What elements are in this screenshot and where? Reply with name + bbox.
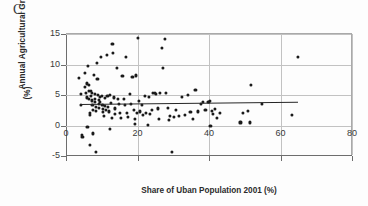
scatter-point (127, 115, 130, 118)
scatter-point (246, 109, 249, 112)
scatter-point (88, 113, 91, 116)
y-tick-label: 15 (38, 28, 60, 38)
scatter-point (120, 116, 123, 119)
scatter-point (107, 106, 110, 109)
scatter-point (215, 117, 218, 120)
y-axis-unit-text: (%) (23, 87, 32, 100)
scatter-point (177, 114, 180, 117)
scatter-point (136, 37, 139, 40)
x-tick (209, 156, 210, 161)
scatter-point (181, 95, 184, 98)
y-axis-title-text: Annual Agricultural Growth (18, 0, 27, 90)
scatter-point (290, 113, 293, 116)
scatter-point (84, 86, 87, 89)
scatter-point (137, 100, 140, 103)
scatter-point (86, 125, 89, 128)
scatter-point (218, 112, 221, 115)
scatter-point (83, 71, 86, 74)
y-axis-unit: (%) (16, 78, 30, 108)
y-tick-label: 10 (38, 59, 60, 69)
scatter-point (108, 127, 111, 130)
scatter-point (167, 118, 170, 121)
scatter-point (121, 75, 124, 78)
scatter-point (149, 112, 152, 115)
scatter-point (96, 78, 99, 81)
scatter-point (113, 107, 116, 110)
scatter-point (111, 43, 114, 46)
x-tick-label: 40 (197, 128, 221, 138)
scatter-point (191, 117, 194, 120)
x-tick (352, 156, 353, 161)
x-tick-label: 80 (340, 128, 364, 138)
scatter-point (241, 111, 244, 114)
scatter-point (95, 150, 98, 153)
y-tick-label: 5 (38, 89, 60, 99)
scatter-point (160, 46, 163, 49)
x-axis-title: Share of Uban Population 2001 (%) (66, 186, 352, 195)
scatter-point (239, 121, 242, 124)
scatter-point (197, 110, 200, 113)
scatter-point (172, 115, 175, 118)
scatter-point (77, 76, 80, 79)
scatter-point (143, 94, 146, 97)
scatter-point (112, 96, 115, 99)
scatter-point (99, 56, 102, 59)
scatter-point (183, 113, 186, 116)
scatter-point (112, 51, 115, 54)
scatter-point (166, 106, 169, 109)
scatter-point (116, 98, 119, 101)
scatter-point (131, 76, 134, 79)
scatter-point (248, 121, 251, 124)
scatter-point (125, 112, 128, 115)
scatter-point (159, 91, 162, 94)
trendline (80, 102, 298, 105)
scatter-point (107, 110, 110, 113)
scatter-point (170, 151, 173, 154)
scatter-point (186, 93, 189, 96)
scatter-point (125, 55, 128, 58)
x-tick-label: 60 (269, 128, 293, 138)
x-tick (138, 156, 139, 161)
scatter-point (105, 54, 108, 57)
scatter-point (147, 95, 150, 98)
scatter-point (118, 111, 121, 114)
scatter-point (212, 112, 215, 115)
scatter-point (102, 115, 105, 118)
scatter-point (163, 37, 166, 40)
y-tick (61, 126, 66, 127)
scatter-point (115, 67, 118, 70)
scatter-point (139, 110, 142, 113)
scatter-point (189, 111, 192, 114)
scatter-point (110, 117, 113, 120)
scatter-point (94, 109, 97, 112)
scatter-point (86, 64, 89, 67)
scatter-point (175, 109, 178, 112)
scatter-point (145, 112, 148, 115)
scatter-point (81, 136, 84, 139)
y-tick (61, 34, 66, 35)
y-tick (61, 95, 66, 96)
scatter-point (157, 117, 160, 120)
y-tick (61, 65, 66, 66)
figure-panel-c: C Annual Agricultural Growth (%) -505101… (0, 0, 368, 206)
scatter-point (194, 88, 197, 91)
scatter-point (204, 108, 207, 111)
scatter-point (92, 73, 95, 76)
x-tick (66, 156, 67, 161)
scatter-point (122, 97, 125, 100)
scatter-point (87, 83, 90, 86)
scatter-point (89, 143, 92, 146)
x-tick (281, 156, 282, 161)
scatter-point (296, 55, 299, 58)
scatter-point (156, 107, 159, 110)
y-tick-label: -5 (38, 150, 60, 160)
scatter-point (114, 112, 117, 115)
scatter-point (150, 108, 153, 111)
x-tick-label: 20 (126, 128, 150, 138)
scatter-point (250, 84, 253, 87)
x-tick-label: 0 (54, 128, 78, 138)
scatter-point (213, 107, 216, 110)
scatter-point (162, 67, 165, 70)
scatter-point (133, 118, 136, 121)
scatter-point (92, 132, 95, 135)
